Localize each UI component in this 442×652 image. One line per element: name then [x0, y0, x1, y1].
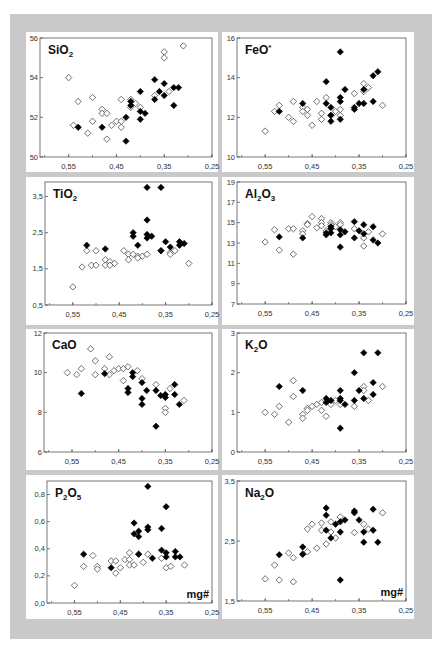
- open-diamond-marker: [125, 257, 131, 263]
- filled-diamond-marker: [328, 112, 334, 118]
- series-open: [70, 248, 192, 291]
- panel-k2o: 0,550,450,350,250123K2O: [222, 329, 414, 470]
- x-tick-label: 0,35: [352, 309, 367, 318]
- open-diamond-marker: [262, 128, 268, 134]
- x-tick-label: 0,45: [111, 457, 126, 466]
- filled-diamond-marker: [337, 116, 343, 122]
- open-diamond-marker: [73, 371, 79, 377]
- open-diamond-marker: [314, 98, 320, 104]
- x-tick-label: 0,55: [66, 310, 81, 319]
- open-diamond-marker: [318, 110, 324, 116]
- open-diamond-marker: [113, 558, 119, 564]
- filled-diamond-marker: [139, 395, 145, 401]
- filled-diamond-marker: [370, 224, 376, 230]
- x-tick-label: 0,25: [399, 457, 414, 466]
- open-diamond-marker: [92, 371, 98, 377]
- plot-title-k2o: K2O: [245, 338, 267, 354]
- x-tick-label: 0,35: [157, 162, 172, 171]
- x-tick-label: 0,45: [112, 310, 127, 319]
- x-tick-label: 0,55: [258, 162, 273, 171]
- filled-diamond-marker: [351, 397, 357, 403]
- filled-diamond-marker: [300, 100, 306, 106]
- filled-diamond-marker: [158, 184, 164, 190]
- open-diamond-marker: [309, 521, 315, 527]
- x-tick-label: 0,35: [158, 310, 173, 319]
- x-tick-label: 0,25: [205, 457, 220, 466]
- series-filled: [80, 483, 183, 571]
- open-diamond-marker: [186, 260, 192, 266]
- open-diamond-marker: [323, 541, 329, 547]
- x-tick-label: 0,25: [399, 606, 414, 615]
- x-tick-label: 0,45: [305, 606, 320, 615]
- open-diamond-marker: [104, 136, 110, 142]
- filled-diamond-marker: [351, 235, 357, 241]
- open-diamond-marker: [379, 231, 385, 237]
- series-open: [262, 80, 386, 134]
- open-diamond-marker: [314, 545, 320, 551]
- y-tick-label: 7: [231, 300, 235, 309]
- x-axis-label: mg#: [380, 586, 403, 598]
- filled-diamond-marker: [328, 535, 334, 541]
- x-tick-label: 0,45: [305, 309, 320, 318]
- open-diamond-marker: [108, 122, 114, 128]
- x-tick-label: 0,55: [67, 608, 82, 617]
- y-tick-label: 17: [227, 198, 235, 207]
- filled-diamond-marker: [123, 138, 129, 144]
- open-diamond-marker: [131, 562, 137, 568]
- series-filled: [84, 184, 188, 254]
- x-tick-label: 0,35: [158, 457, 173, 466]
- plot-title-na2o: Na2O: [245, 486, 274, 502]
- open-diamond-marker: [140, 559, 146, 565]
- open-diamond-marker: [145, 551, 151, 557]
- filled-diamond-marker: [177, 554, 183, 560]
- open-diamond-marker: [70, 284, 76, 290]
- panel-na2o: 0,550,450,350,251,52,53,5Na2Omg#: [222, 475, 414, 619]
- open-diamond-marker: [351, 529, 357, 535]
- scatter-plot-al2o3: 0,550,450,350,25791113151719Al2O3: [222, 177, 414, 325]
- panel-feo: 0,550,450,350,2510121416FeO*: [222, 32, 414, 172]
- filled-diamond-marker: [375, 539, 381, 545]
- filled-diamond-marker: [337, 244, 343, 250]
- scatter-plot-feo: 0,550,450,350,2510121416FeO*: [222, 32, 414, 172]
- filled-diamond-marker: [143, 387, 149, 393]
- filled-diamond-marker: [328, 118, 334, 124]
- filled-diamond-marker: [370, 379, 376, 385]
- filled-diamond-marker: [356, 517, 362, 523]
- x-tick-label: 0,25: [205, 310, 220, 319]
- plot-title-p2o5: P2O5: [55, 486, 82, 502]
- y-tick-label: 3,5: [33, 192, 43, 201]
- y-tick-label: 13: [227, 239, 235, 248]
- open-diamond-marker: [271, 411, 277, 417]
- filled-diamond-marker: [144, 184, 150, 190]
- open-diamond-marker: [167, 385, 173, 391]
- filled-diamond-marker: [323, 100, 329, 106]
- y-tick-label: 1,5: [225, 597, 235, 606]
- filled-diamond-marker: [78, 390, 84, 396]
- open-diamond-marker: [318, 520, 324, 526]
- open-diamond-marker: [351, 90, 357, 96]
- y-tick-label: 16: [227, 34, 235, 43]
- open-diamond-marker: [104, 110, 110, 116]
- open-diamond-marker: [361, 243, 367, 249]
- filled-diamond-marker: [328, 104, 334, 110]
- filled-diamond-marker: [125, 389, 131, 395]
- filled-diamond-marker: [375, 69, 381, 75]
- open-diamond-marker: [79, 264, 85, 270]
- filled-diamond-marker: [276, 234, 282, 240]
- filled-diamond-marker: [137, 88, 143, 94]
- filled-diamond-marker: [108, 565, 114, 571]
- y-tick-label: 12: [34, 329, 42, 338]
- filled-diamond-marker: [171, 102, 177, 108]
- filled-diamond-marker: [158, 525, 164, 531]
- open-diamond-marker: [92, 358, 98, 364]
- filled-diamond-marker: [153, 387, 159, 393]
- scatter-plot-sio2: 0,550,450,350,2550525456SiO2: [26, 32, 218, 172]
- y-tick-label: 56: [30, 34, 38, 43]
- filled-diamond-marker: [370, 506, 376, 512]
- open-diamond-marker: [121, 248, 127, 254]
- open-diamond-marker: [290, 226, 296, 232]
- series-open: [65, 43, 186, 143]
- y-tick-label: 19: [227, 178, 235, 187]
- filled-diamond-marker: [276, 383, 282, 389]
- x-tick-label: 0,45: [305, 162, 320, 171]
